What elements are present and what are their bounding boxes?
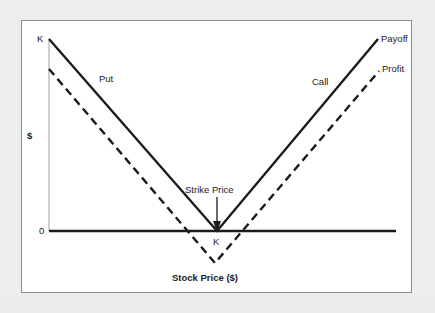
- x-axis-title: Stock Price ($): [172, 273, 238, 283]
- x-axis-strike-tick-label: K: [213, 237, 219, 247]
- call-series-label: Call: [312, 77, 328, 87]
- figure-frame: K 0 $ K Put Call Payoff Profit Strike Pr…: [21, 20, 412, 293]
- payoff-series-line: [49, 39, 378, 231]
- strike-price-annotation-label: Strike Price: [185, 185, 234, 195]
- payoff-series-label: Payoff: [381, 34, 408, 44]
- figure-page: K 0 $ K Put Call Payoff Profit Strike Pr…: [0, 0, 435, 313]
- y-axis-zero-tick-label: 0: [39, 226, 44, 236]
- straddle-payoff-chart: [22, 21, 413, 294]
- put-series-label: Put: [99, 74, 113, 84]
- y-axis-title: $: [27, 131, 32, 141]
- profit-series-label: Profit: [382, 64, 404, 74]
- y-axis-top-tick-label: K: [37, 34, 43, 44]
